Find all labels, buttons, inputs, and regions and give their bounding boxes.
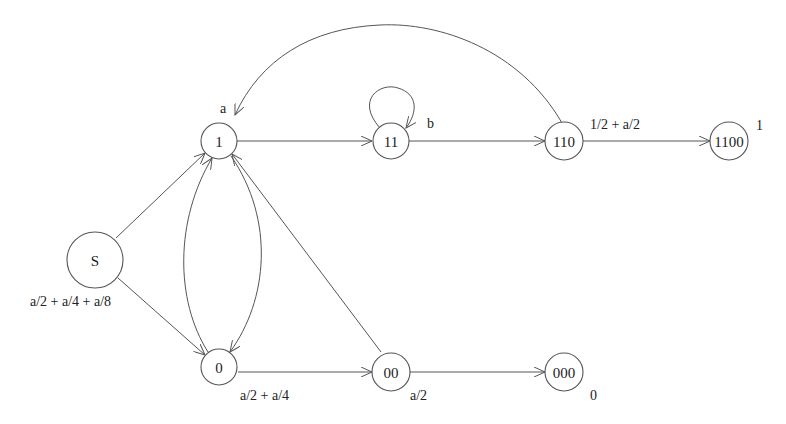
- node-1100-label: 1100: [714, 134, 743, 150]
- node-0: 0: [201, 349, 237, 385]
- node-11: 11: [373, 123, 409, 159]
- annotation-110: 1/2 + a/2: [590, 117, 640, 132]
- node-110-label: 110: [553, 134, 575, 150]
- node-1-label: 1: [215, 134, 223, 150]
- node-00-label: 00: [384, 365, 399, 381]
- annotation-11: b: [427, 116, 434, 131]
- edge-1-to-0: [230, 156, 261, 352]
- node-S: S: [67, 232, 123, 288]
- node-0-label: 0: [215, 360, 223, 376]
- edges: [116, 25, 710, 372]
- node-00: 00: [372, 353, 410, 391]
- edge-0-to-1: [184, 158, 212, 352]
- node-11-label: 11: [384, 134, 398, 150]
- node-1: 1: [201, 123, 237, 159]
- node-000: 000: [545, 353, 583, 391]
- edge-S-to-1: [116, 153, 205, 238]
- node-1100: 1100: [710, 122, 748, 160]
- node-000-label: 000: [553, 365, 576, 381]
- edge-110-to-1: [235, 25, 562, 123]
- edge-11-self-loop: [369, 87, 414, 128]
- annotation-0: a/2 + a/4: [240, 388, 289, 403]
- node-110: 110: [545, 122, 583, 160]
- edge-00-to-1: [232, 154, 381, 352]
- node-S-label: S: [91, 253, 99, 269]
- annotation-1100: 1: [756, 118, 763, 133]
- annotation-00: a/2: [410, 388, 427, 403]
- annotation-S: a/2 + a/4 + a/8: [30, 294, 111, 309]
- state-diagram: S 1 11 110 1100 0 00 000 a/2 + a/4 + a/8…: [0, 0, 786, 424]
- annotation-000: 0: [590, 388, 597, 403]
- annotation-1: a: [220, 101, 227, 116]
